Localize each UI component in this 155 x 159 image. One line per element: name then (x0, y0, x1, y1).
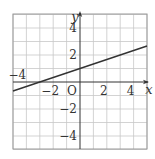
x-axis-label: x (145, 82, 153, 97)
x-tick-label: −2 (41, 84, 59, 98)
axes (13, 11, 149, 149)
y-tick-label: 2 (69, 48, 77, 62)
origin-label: O (67, 84, 77, 98)
coordinate-plane: −4−22442−2−4Oxy (0, 0, 155, 159)
y-tick-label: −4 (59, 129, 77, 143)
x-tick-label: 2 (100, 84, 108, 98)
x-tick-label: 4 (127, 84, 135, 98)
y-axis-label: y (70, 9, 79, 24)
y-tick-label: −2 (59, 102, 77, 116)
x-tick-label: −4 (9, 68, 27, 82)
